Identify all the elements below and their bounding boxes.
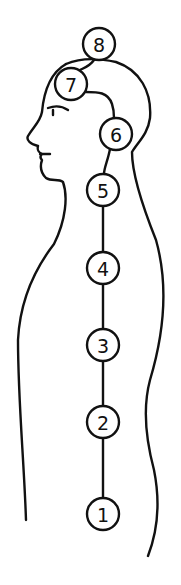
node-6: 6 (100, 118, 132, 150)
node-8: 8 (83, 28, 115, 60)
node-3-label: 3 (97, 335, 109, 357)
node-2: 2 (87, 406, 119, 438)
node-7: 7 (55, 68, 87, 100)
node-7-label: 7 (65, 74, 77, 96)
diagram-stage: 1 2 3 4 5 6 7 8 (0, 0, 181, 585)
body-diagram: 1 2 3 4 5 6 7 8 (0, 0, 181, 585)
channel-7-6 (86, 92, 114, 118)
node-6-label: 6 (110, 124, 122, 146)
node-2-label: 2 (97, 412, 109, 434)
node-1-label: 1 (97, 504, 109, 526)
node-3: 3 (87, 329, 119, 361)
channel-6-5 (104, 149, 110, 174)
node-5-label: 5 (97, 180, 109, 202)
front-profile-line (18, 64, 66, 520)
channel-8-7 (80, 60, 94, 70)
node-5: 5 (87, 174, 119, 206)
node-1: 1 (87, 498, 119, 530)
node-4-label: 4 (97, 258, 109, 280)
node-4: 4 (87, 252, 119, 284)
node-8-label: 8 (93, 34, 105, 56)
eyebrow-line (48, 106, 68, 110)
